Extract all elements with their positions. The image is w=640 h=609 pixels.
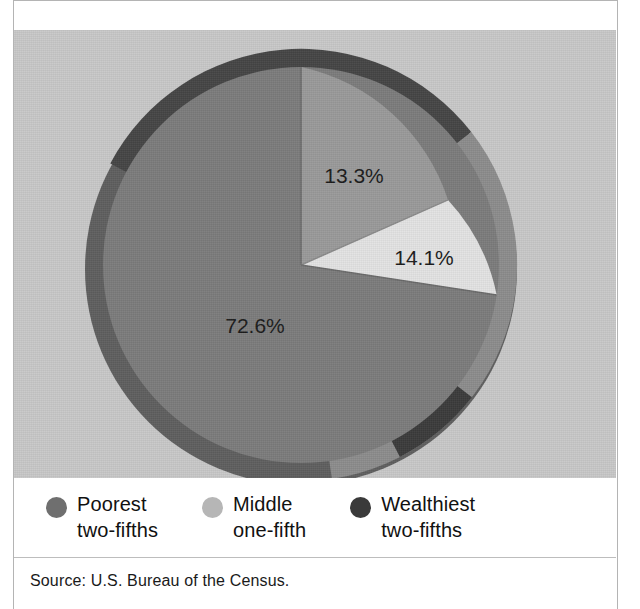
legend-swatch-poorest-icon — [46, 497, 67, 518]
pie-chart: 13.3% 14.1% 72.6% — [82, 46, 520, 478]
pie-label-middle: 13.3% — [324, 164, 384, 187]
legend-swatch-middle-icon — [202, 497, 223, 518]
legend-label-middle: Middle one-fifth — [233, 492, 306, 543]
legend-label-wealthiest: Wealthiest two-fifths — [381, 492, 475, 543]
pie-svg: 13.3% 14.1% 72.6% — [82, 46, 520, 478]
frame-right-rule — [617, 0, 618, 609]
legend-item-wealthiest[interactable]: Wealthiest two-fifths — [350, 492, 475, 543]
legend-item-middle[interactable]: Middle one-fifth — [202, 492, 306, 543]
legend-swatch-wealthiest-icon — [350, 497, 371, 518]
pie-label-wealthiest: 14.1% — [394, 246, 454, 269]
frame-top-rule — [13, 0, 618, 1]
source-divider — [14, 557, 616, 558]
legend-item-poorest[interactable]: Poorest two-fifths — [46, 492, 158, 543]
pie-label-poorest: 72.6% — [225, 314, 285, 337]
chart-plot-area: 13.3% 14.1% 72.6% — [14, 30, 616, 478]
source-caption: Source: U.S. Bureau of the Census. — [30, 572, 289, 590]
chart-legend: Poorest two-fifths Middle one-fifth Weal… — [14, 478, 616, 556]
legend-label-poorest: Poorest two-fifths — [77, 492, 158, 543]
chart-figure: 13.3% 14.1% 72.6% Poorest two-fifths Mid… — [0, 0, 640, 609]
